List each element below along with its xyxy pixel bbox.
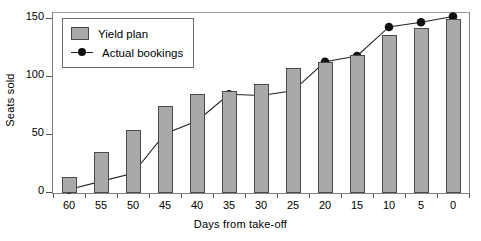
yield-plan-bar bbox=[446, 19, 461, 193]
yield-plan-bar bbox=[222, 91, 237, 193]
x-tick-label: 45 bbox=[159, 200, 171, 211]
yield-plan-bar bbox=[318, 62, 333, 193]
x-axis: 605550454035302520151050 bbox=[52, 194, 470, 218]
legend-label-yield-plan: Yield plan bbox=[98, 28, 148, 40]
x-tick-label: 20 bbox=[319, 200, 331, 211]
x-tick-label: 35 bbox=[223, 200, 235, 211]
x-tick-mark bbox=[309, 194, 310, 198]
yield-plan-bar bbox=[62, 177, 77, 193]
x-tick-label: 10 bbox=[383, 200, 395, 211]
yield-plan-bar bbox=[190, 94, 205, 193]
x-tick-mark bbox=[405, 194, 406, 198]
x-tick-label: 60 bbox=[63, 200, 75, 211]
y-tick-label: 100 bbox=[26, 69, 44, 80]
yield-plan-bar bbox=[350, 55, 365, 193]
x-tick-label: 25 bbox=[287, 200, 299, 211]
x-tick-mark bbox=[117, 194, 118, 198]
x-tick-label: 0 bbox=[450, 200, 456, 211]
x-tick-mark bbox=[85, 194, 86, 198]
yield-plan-bar bbox=[254, 84, 269, 193]
yield-plan-bar bbox=[94, 152, 109, 193]
actual-bookings-marker bbox=[417, 18, 426, 27]
x-tick-label: 15 bbox=[351, 200, 363, 211]
x-tick-mark bbox=[181, 194, 182, 198]
yield-plan-bar bbox=[158, 106, 173, 193]
y-tick-label: 50 bbox=[32, 127, 44, 138]
x-tick-mark bbox=[469, 194, 470, 198]
x-tick-mark bbox=[149, 194, 150, 198]
x-tick-mark bbox=[245, 194, 246, 198]
x-tick-mark bbox=[53, 194, 54, 198]
x-tick-label: 55 bbox=[95, 200, 107, 211]
y-axis: 050100150 bbox=[0, 12, 52, 194]
legend-label-actual-bookings: Actual bookings bbox=[102, 47, 183, 59]
yield-plan-bar bbox=[286, 68, 301, 193]
yield-plan-bar bbox=[382, 35, 397, 193]
chart-legend: Yield plan Actual bookings bbox=[62, 18, 194, 68]
x-tick-label: 40 bbox=[191, 200, 203, 211]
legend-item-yield-plan: Yield plan bbox=[71, 24, 183, 43]
legend-item-actual-bookings: Actual bookings bbox=[71, 43, 183, 62]
yield-plan-swatch-icon bbox=[71, 27, 89, 40]
x-tick-label: 30 bbox=[255, 200, 267, 211]
actual-bookings-swatch-icon bbox=[71, 46, 93, 59]
x-tick-label: 5 bbox=[418, 200, 424, 211]
x-tick-label: 50 bbox=[127, 200, 139, 211]
actual-bookings-marker bbox=[385, 23, 394, 32]
x-tick-mark bbox=[341, 194, 342, 198]
x-tick-mark bbox=[213, 194, 214, 198]
seats-sold-chart: Seats sold 050100150 6055504540353025201… bbox=[0, 0, 481, 241]
y-tick-label: 0 bbox=[38, 185, 44, 196]
x-tick-mark bbox=[437, 194, 438, 198]
x-tick-mark bbox=[373, 194, 374, 198]
y-tick-label: 150 bbox=[26, 11, 44, 22]
x-axis-title-text: Days from take-off bbox=[194, 218, 287, 230]
x-axis-title: Days from take-off bbox=[0, 218, 481, 230]
x-tick-mark bbox=[277, 194, 278, 198]
yield-plan-bar bbox=[414, 28, 429, 193]
yield-plan-bar bbox=[126, 130, 141, 193]
